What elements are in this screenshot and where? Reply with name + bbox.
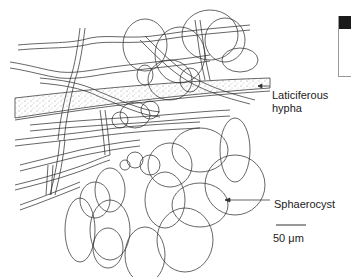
side-panel-header xyxy=(339,16,351,29)
scale-bar-label: 50 μm xyxy=(273,232,304,245)
label-laticiferous: Laticiferous xyxy=(272,89,328,102)
label-sphaerocyst: Sphaerocyst xyxy=(274,198,335,211)
cropped-side-panel xyxy=(338,16,351,77)
label-hypha: hypha xyxy=(272,102,302,115)
